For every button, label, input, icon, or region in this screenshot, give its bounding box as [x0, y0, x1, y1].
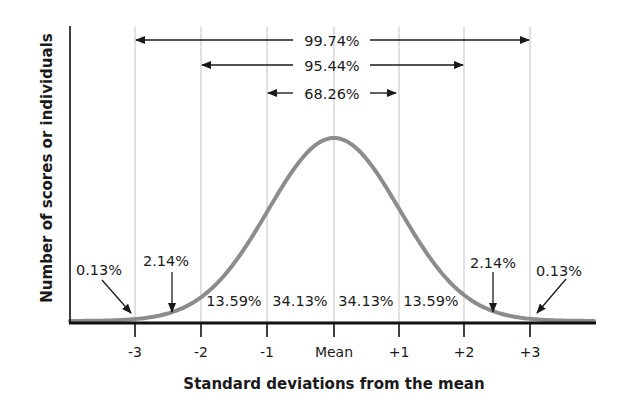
svg-text:-2: -2: [194, 344, 208, 360]
range-label-2sd: 95.44%: [304, 58, 359, 74]
segment-label-left-tail: 0.13%: [76, 262, 122, 278]
range-label-3sd: 99.74%: [304, 33, 359, 49]
normal-distribution-chart: 99.74% 95.44% 68.26% 0.13% 2.14% 13.59% …: [0, 0, 631, 411]
x-tick-labels: -3 -2 -1 Mean +1 +2 +3: [128, 344, 540, 360]
svg-text:-3: -3: [128, 344, 142, 360]
segment-label-right-2-3: 2.14%: [470, 255, 516, 271]
x-axis-ticks: [135, 323, 530, 337]
segment-label-left-2-1: 13.59%: [206, 293, 261, 309]
svg-text:-1: -1: [260, 344, 274, 360]
range-label-1sd: 68.26%: [304, 86, 359, 102]
segment-label-right-0-1: 34.13%: [338, 293, 393, 309]
svg-text:Mean: Mean: [315, 344, 353, 360]
svg-text:+3: +3: [520, 344, 541, 360]
svg-text:+2: +2: [454, 344, 475, 360]
svg-text:+1: +1: [389, 344, 410, 360]
bell-curve: [70, 138, 594, 321]
x-axis-title: Standard deviations from the mean: [183, 375, 484, 393]
segment-label-left-3-2: 2.14%: [143, 253, 189, 269]
segment-label-right-1-2: 13.59%: [403, 293, 458, 309]
segment-label-right-tail: 0.13%: [536, 263, 582, 279]
segment-label-left-1-0: 34.13%: [272, 293, 327, 309]
y-axis-title: Number of scores or individuals: [38, 33, 56, 303]
